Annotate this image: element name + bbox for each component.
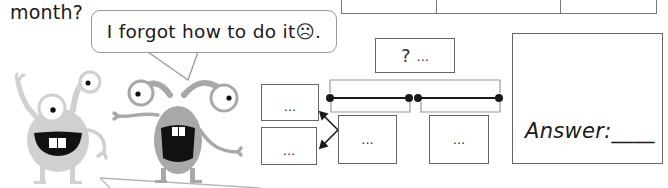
total-bracket [330,80,500,93]
segment-value-box-2: ... [429,115,489,164]
left-value-1: ... [284,99,296,114]
speech-bubble: I forgot how to do it☹. [91,10,337,53]
unknown-symbol: ? [401,45,411,66]
segment-value-box-1: ... [338,115,397,164]
arrow-icon [320,112,338,148]
total-unknown-box: ? ... [375,38,455,73]
answer-label: Answer:____ [525,119,655,143]
lower-bubble-edge [100,178,260,188]
answer-blank[interactable]: ____ [612,119,655,143]
gray-monster-icon [114,81,241,183]
light-gray-monster-icon [16,72,106,184]
point-icon [326,94,334,102]
left-value-box-2: ... [261,127,317,165]
segment-value-1: ... [361,132,373,147]
point-icon [414,94,422,102]
speech-bubble-tail [148,52,198,80]
answer-box: Answer:____ [512,33,663,164]
speech-bubble-text: I forgot how to do it☹. [107,21,322,42]
segment-value-2: ... [453,132,465,147]
total-value: ... [417,49,429,64]
left-value-2: ... [283,143,295,158]
segment-bracket-2 [421,102,500,112]
left-value-box-1: ... [261,84,319,121]
point-icon [405,94,413,102]
segment-bracket-1 [331,102,410,112]
answer-label-text: Answer: [525,119,612,143]
point-icon [495,94,503,102]
